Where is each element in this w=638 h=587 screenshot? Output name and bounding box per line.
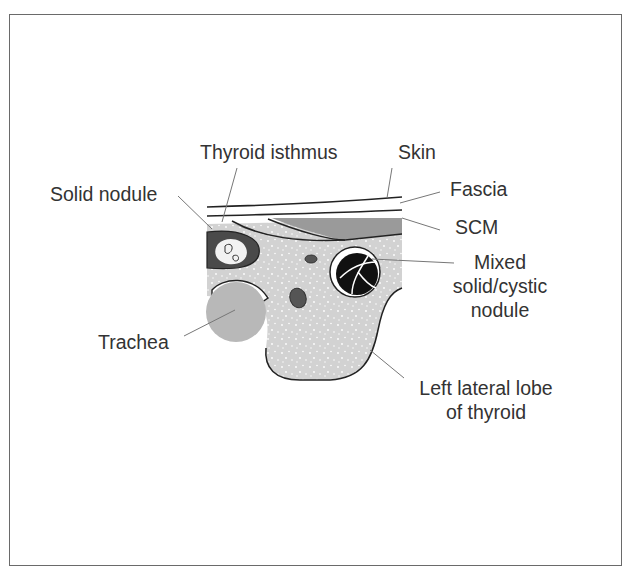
label-mixed-line1: Mixed bbox=[440, 250, 560, 274]
label-left-lobe-line2: of thyroid bbox=[406, 400, 566, 424]
label-scm: SCM bbox=[455, 215, 498, 239]
label-thyroid-isthmus: Thyroid isthmus bbox=[200, 140, 338, 164]
label-solid-nodule: Solid nodule bbox=[50, 182, 157, 206]
skin-line bbox=[207, 197, 402, 207]
label-trachea: Trachea bbox=[98, 330, 169, 354]
label-mixed-line2: solid/cystic bbox=[440, 274, 560, 298]
small-dark-oval bbox=[305, 255, 317, 263]
fascia-line bbox=[207, 210, 402, 216]
trachea bbox=[206, 280, 268, 342]
mixed-cystic-nodule bbox=[330, 247, 380, 297]
label-left-lateral-lobe: Left lateral lobe of thyroid bbox=[406, 376, 566, 424]
label-left-lobe-line1: Left lateral lobe bbox=[406, 376, 566, 400]
label-mixed-nodule: Mixed solid/cystic nodule bbox=[440, 250, 560, 322]
label-skin: Skin bbox=[398, 140, 436, 164]
label-mixed-line3: nodule bbox=[440, 298, 560, 322]
label-fascia: Fascia bbox=[450, 177, 507, 201]
